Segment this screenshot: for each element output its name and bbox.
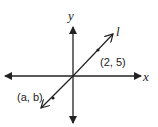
point-a-b (51, 96, 54, 99)
line-l (41, 34, 113, 108)
point-2-5-label: (2, 5) (100, 56, 126, 68)
point-2-5 (96, 48, 99, 51)
coordinate-diagram: y x l (2, 5) (a, b) (0, 0, 158, 127)
x-axis-label: x (142, 69, 149, 84)
line-label: l (116, 24, 120, 39)
y-axis-label: y (66, 8, 74, 23)
point-a-b-label: (a, b) (17, 91, 43, 103)
